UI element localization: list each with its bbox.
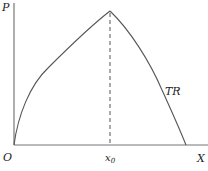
y-axis-label: P — [1, 1, 10, 14]
curve-label-tr: TR — [165, 85, 181, 98]
tr-curve-rising — [14, 11, 110, 145]
x0-label: x0 — [105, 152, 116, 165]
x0-label-subscript: 0 — [111, 157, 116, 165]
tr-curve-falling — [110, 11, 186, 145]
tr-chart: P O X TR x0 — [0, 0, 208, 171]
x-axis-label: X — [196, 152, 206, 165]
origin-label: O — [3, 151, 12, 164]
